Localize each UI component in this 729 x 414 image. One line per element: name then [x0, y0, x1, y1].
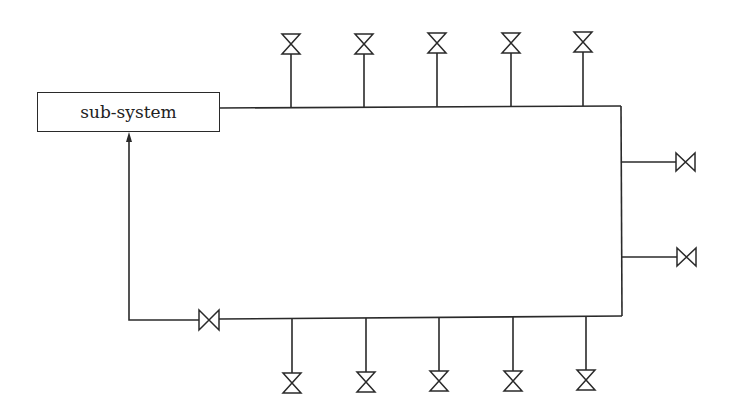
piping-diagram — [0, 0, 729, 414]
subsystem-box: sub-system — [37, 92, 220, 132]
valve-icon — [577, 370, 595, 390]
valve-icon — [504, 371, 522, 391]
valve-icon — [676, 153, 695, 171]
valve-icon — [574, 32, 592, 52]
top-branch-valves — [282, 32, 592, 108]
valve-icon — [428, 33, 446, 53]
return-valve-icon — [199, 310, 219, 330]
valve-icon — [502, 33, 520, 53]
valve-icon — [355, 34, 373, 54]
subsystem-label: sub-system — [80, 102, 176, 122]
valve-icon — [283, 373, 301, 393]
top-header-pipe — [219, 106, 621, 108]
valve-icon — [282, 34, 300, 54]
valve-icon — [677, 248, 696, 266]
bottom-header-pipe — [219, 316, 622, 319]
return-line-pipe — [129, 138, 199, 320]
right-header-pipe — [621, 106, 622, 316]
bottom-branch-valves — [283, 316, 595, 393]
right-branch-valves — [621, 153, 696, 266]
valve-icon — [430, 371, 448, 391]
valve-icon — [357, 372, 375, 392]
flow-arrow-icon — [126, 132, 132, 142]
